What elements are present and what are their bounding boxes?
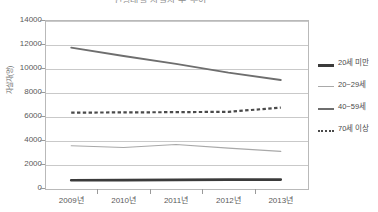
legend-item[interactable]: 20~29세 (318, 78, 378, 100)
y-tick-label: 14000 (2, 16, 42, 24)
data-series-layer (45, 20, 307, 188)
x-tick-mark (97, 189, 98, 194)
x-tick-label: 2013년 (251, 196, 311, 205)
legend-item[interactable]: 40~59세 (318, 100, 378, 122)
x-tick-label: 2010년 (94, 196, 154, 205)
chart-title: 연령대별 자살자 수 추이 (0, 0, 320, 3)
y-tick-label: 10000 (2, 64, 42, 72)
legend-item[interactable]: 70세 이상 (318, 122, 378, 144)
legend-label: 20~29세 (338, 80, 366, 90)
line-chart: 연령대별 자살자 수 추이 자살자(명) 0200040006000800010… (0, 0, 378, 212)
x-tick-mark (150, 189, 151, 194)
x-tick-label: 2009년 (41, 196, 101, 205)
x-tick-label: 2012년 (198, 196, 258, 205)
y-tick-label: 4000 (2, 136, 42, 144)
legend-swatch (318, 64, 334, 67)
series-line (71, 108, 281, 113)
y-tick-label: 2000 (2, 160, 42, 168)
legend-swatch (318, 86, 334, 87)
y-tick-mark (40, 188, 45, 189)
series-line (71, 180, 281, 181)
chart-legend: 20세 미만20~29세40~59세70세 이상 (318, 56, 378, 144)
y-tick-label: 0 (2, 184, 42, 192)
legend-label: 20세 미만 (338, 58, 369, 68)
legend-item[interactable]: 20세 미만 (318, 56, 378, 78)
legend-swatch (318, 130, 334, 132)
x-tick-mark (202, 189, 203, 194)
legend-swatch (318, 108, 334, 110)
x-tick-label: 2011년 (146, 196, 206, 205)
series-line (71, 48, 281, 80)
y-axis-title: 자살자(명) (4, 52, 14, 108)
y-tick-label: 6000 (2, 112, 42, 120)
legend-label: 40~59세 (338, 102, 366, 112)
legend-label: 70세 이상 (338, 124, 369, 134)
series-line (71, 145, 281, 152)
y-tick-label: 12000 (2, 40, 42, 48)
x-tick-mark (255, 189, 256, 194)
y-tick-label: 8000 (2, 88, 42, 96)
